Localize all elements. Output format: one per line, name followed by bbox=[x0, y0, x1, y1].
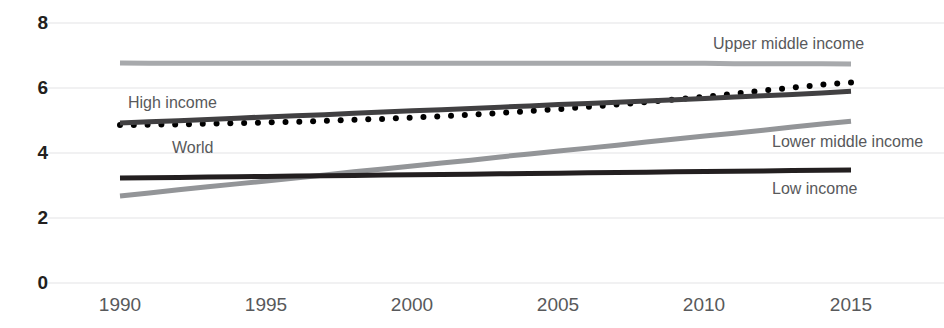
series-label-world: World bbox=[172, 140, 214, 156]
series-high-income bbox=[120, 91, 851, 123]
data-point bbox=[545, 107, 551, 113]
data-point bbox=[296, 119, 302, 125]
data-point bbox=[407, 115, 413, 121]
data-point bbox=[324, 118, 330, 124]
data-point bbox=[462, 112, 468, 118]
x-tick-label-1995: 1995 bbox=[221, 295, 311, 314]
series-layer bbox=[117, 63, 854, 196]
data-point bbox=[848, 79, 854, 85]
series-label-upper-middle-income: Upper middle income bbox=[713, 36, 864, 52]
data-point bbox=[820, 82, 826, 88]
y-tick-label-2: 2 bbox=[8, 208, 48, 227]
y-tick-label-0: 0 bbox=[8, 273, 48, 292]
data-point bbox=[365, 116, 371, 122]
data-point bbox=[793, 84, 799, 90]
data-point bbox=[393, 115, 399, 121]
data-point bbox=[834, 81, 840, 87]
data-point bbox=[476, 111, 482, 117]
y-tick-label-6: 6 bbox=[8, 78, 48, 97]
series-label-lower-middle-income: Lower middle income bbox=[772, 134, 923, 150]
data-point bbox=[448, 113, 454, 119]
data-point bbox=[310, 118, 316, 124]
data-point bbox=[489, 110, 495, 116]
series-label-high-income: High income bbox=[128, 95, 217, 111]
data-point bbox=[503, 110, 509, 116]
data-point bbox=[269, 119, 275, 125]
x-tick-label-2005: 2005 bbox=[513, 295, 603, 314]
data-point bbox=[434, 113, 440, 119]
series-label-low-income: Low income bbox=[772, 181, 857, 197]
x-tick-label-2000: 2000 bbox=[367, 295, 457, 314]
data-point bbox=[765, 87, 771, 93]
data-point bbox=[779, 86, 785, 92]
y-tick-label-4: 4 bbox=[8, 143, 48, 162]
data-point bbox=[517, 109, 523, 115]
y-tick-label-8: 8 bbox=[8, 13, 48, 32]
x-tick-label-1990: 1990 bbox=[75, 295, 165, 314]
data-point bbox=[351, 117, 357, 123]
data-point bbox=[807, 83, 813, 89]
data-point bbox=[227, 120, 233, 126]
series-low-income bbox=[120, 170, 851, 178]
series-lower-middle-income bbox=[120, 121, 851, 196]
data-point bbox=[241, 120, 247, 126]
data-point bbox=[379, 116, 385, 122]
data-point bbox=[338, 117, 344, 123]
x-tick-label-2010: 2010 bbox=[659, 295, 749, 314]
data-point bbox=[283, 119, 289, 125]
series-upper-middle-income bbox=[120, 63, 851, 64]
x-tick-label-2015: 2015 bbox=[806, 295, 896, 314]
line-chart: 8 6 4 2 0 1990 1995 2000 2005 2010 2015 … bbox=[0, 0, 944, 328]
data-point bbox=[420, 114, 426, 120]
data-point bbox=[255, 120, 261, 126]
data-point bbox=[531, 108, 537, 114]
